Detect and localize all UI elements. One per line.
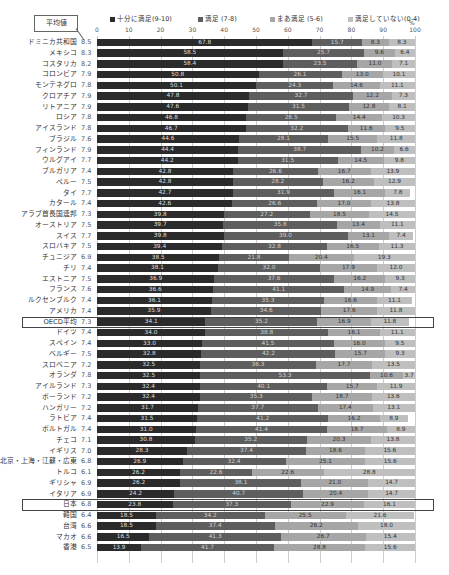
bar-segment: 18.7 (327, 426, 386, 434)
average-value: 7.8 (81, 370, 91, 380)
country-label: 台湾 (63, 521, 77, 531)
chart-row: ブルガリア7.442.826.616.713.9 (0, 166, 449, 177)
chart-row: ラトビア7.431.541.216.28.9 (0, 413, 449, 424)
bar-segment: 26.2 (275, 522, 358, 530)
bar-segment: 16.5 (327, 243, 379, 251)
bar-segment: 38.5 (97, 254, 219, 262)
bar-segment: 9.3 (385, 275, 415, 283)
stacked-bar: 50.826.113.010.1 (97, 71, 415, 79)
bar-segment: 9.6 (364, 49, 394, 57)
country-label: イタリア (49, 489, 77, 499)
x-tick-label: 40 (220, 26, 228, 33)
bar-segment: 9.5 (385, 340, 415, 348)
country-label: トルコ (56, 467, 77, 477)
country-label: コロンビア (42, 69, 77, 79)
bar-segment: 16.6 (324, 297, 377, 305)
bar-segment: 17.7 (316, 361, 372, 369)
bar-segment: 9.3 (385, 350, 415, 358)
bar-segment: 36.3 (200, 361, 315, 369)
country-label: モンテネグロ (35, 80, 77, 90)
bar-segment: 32.7 (249, 92, 353, 100)
legend-label: 十分に満足(9-10) (117, 15, 172, 23)
average-value: 7.4 (81, 338, 91, 348)
bar-segment: 15.4 (366, 533, 415, 541)
bar-segment: 47.6 (97, 103, 248, 111)
bar-segment: 28.3 (97, 447, 187, 455)
bar-segment: 47.8 (97, 92, 249, 100)
bar-segment: 31.0 (97, 426, 196, 434)
bar-segment: 44.6 (97, 135, 239, 143)
chart-row: スロベニア7.232.536.317.713.5 (0, 360, 449, 371)
stacked-bar: 58.525.79.66.4 (97, 49, 415, 57)
bar-segment: 9.5 (385, 125, 415, 133)
stacked-bar: 44.231.514.59.8 (97, 157, 415, 165)
chart-row: スイス7.739.839.013.17.4 (0, 231, 449, 242)
average-value: 6.9 (81, 478, 91, 488)
bar-segment: 13.6 (372, 393, 415, 401)
chart-row: タイ7.742.731.916.17.8 (0, 188, 449, 199)
bar-segment: 7.4 (389, 232, 413, 240)
stacked-bar: 33.041.516.09.5 (97, 340, 415, 348)
stacked-bar: 31.041.418.78.9 (97, 426, 415, 434)
country-label: カタール (49, 198, 77, 208)
bar-segment: 12.0 (377, 264, 415, 272)
country-label: ドイツ (56, 327, 77, 337)
bar-segment: 58.4 (97, 60, 283, 68)
country-label: ウルグアイ (42, 155, 77, 165)
chart-row: アラブ首長国連邦7.339.827.218.514.5 (0, 209, 449, 220)
country-label: タイ (63, 188, 77, 198)
bar-segment: 37.3 (173, 501, 292, 509)
country-label: コスタリカ (42, 59, 77, 69)
bar-segment: 41.7 (141, 544, 274, 552)
stacked-bar: 50.124.314.611.1 (97, 82, 415, 90)
bar-segment: 31.5 (97, 415, 197, 423)
bar-segment: 22.6 (180, 469, 252, 477)
chart-row: カタール7.442.626.617.013.8 (0, 198, 449, 209)
bar-segment: 19.3 (354, 254, 415, 262)
chart-row: オーストリア7.539.735.813.411.1 (0, 220, 449, 231)
bar-segment: 42.2 (201, 350, 335, 358)
bar-segment: 17.6 (321, 307, 377, 315)
bar-segment: 13.5 (372, 361, 415, 369)
bar-segment: 13.4 (337, 221, 380, 229)
percent-unit-label: % (409, 19, 415, 26)
bar-segment: 14.4 (336, 114, 382, 122)
bar-segment: 11.1 (380, 329, 415, 337)
average-value: 7.9 (81, 69, 91, 79)
bar-segment: 16.7 (318, 168, 371, 176)
stacked-bar: 42.626.617.013.8 (97, 200, 415, 208)
bar-segment: 6.4 (395, 49, 415, 57)
stacked-bar: 32.553.310.63.7 (97, 372, 415, 380)
average-value: 7.0 (81, 446, 91, 456)
bar-segment: 15.7 (335, 350, 385, 358)
chart-row: チリ7.438.132.017.912.0 (0, 263, 449, 274)
stacked-bar: 31.737.717.413.1 (97, 404, 415, 412)
stacked-bar: 26.238.121.014.7 (97, 479, 415, 487)
country-label: イギリス (49, 446, 77, 456)
bar-segment: 31.5 (248, 103, 348, 111)
stacked-bar: 30.835.220.313.8 (97, 436, 415, 444)
average-value: 6.9 (81, 252, 91, 262)
bar-segment: 32.5 (97, 361, 200, 369)
stacked-bar: 58.423.511.07.1 (97, 60, 415, 68)
chart-row: コロンビア7.950.826.113.010.1 (0, 69, 449, 80)
average-value: 7.8 (81, 123, 91, 133)
bar-segment: 37.4 (187, 447, 306, 455)
bar-segment: 20.4 (289, 254, 354, 262)
bar-segment: 7.3 (392, 92, 415, 100)
bar-segment: 7.4 (391, 286, 415, 294)
average-value: 7.5 (81, 241, 91, 251)
country-label: チェコ (56, 435, 77, 445)
average-value: 7.5 (81, 177, 91, 187)
average-value: 7.5 (81, 349, 91, 359)
bar-segment: 67.8 (97, 39, 312, 47)
bar-segment: 15.6 (365, 544, 415, 552)
bar-segment: 25.1 (286, 458, 366, 466)
average-value: 7.4 (81, 327, 91, 337)
bar-segment: 11.6 (348, 125, 385, 133)
bar-segment: 40.1 (200, 383, 327, 391)
bar-segment: 3.7 (403, 372, 415, 380)
bar-segment: 35.8 (223, 221, 337, 229)
bar-segment: 8.3 (389, 39, 415, 47)
bar-segment: 32.5 (97, 372, 200, 380)
